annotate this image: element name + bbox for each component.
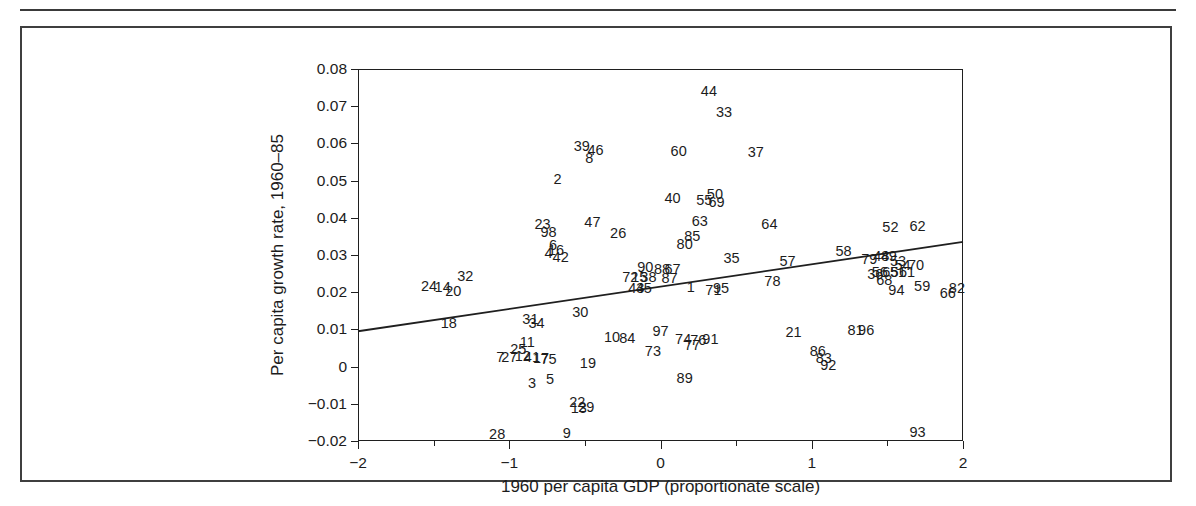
data-point-label: 24: [421, 278, 437, 293]
y-tick-mark: [351, 441, 358, 442]
data-point-label: 97: [652, 324, 668, 339]
data-point-label: 33: [716, 105, 732, 120]
data-point-label: 35: [724, 251, 740, 266]
y-tick-label: 0.06: [317, 134, 347, 152]
x-minor-tick-mark: [585, 441, 586, 446]
data-point-label: 30: [572, 305, 588, 320]
data-point-label: 79: [861, 252, 877, 267]
data-point-label: 95: [713, 281, 729, 296]
data-point-label: 46: [587, 142, 603, 157]
y-tick-label: 0.08: [317, 60, 347, 78]
x-minor-tick-mark: [887, 441, 888, 446]
data-point-label: 19: [580, 356, 596, 371]
y-tick-label: −0.02: [308, 432, 347, 450]
data-point-label: 32: [457, 269, 473, 284]
data-point-label: 84: [619, 330, 635, 345]
data-point-label: 57: [779, 254, 795, 269]
data-point-label: 34: [528, 316, 544, 331]
y-tick-mark: [351, 367, 358, 368]
data-point-label: 70: [908, 257, 924, 272]
data-point-label: 92: [820, 357, 836, 372]
x-tick-label: 2: [959, 454, 968, 472]
data-point-label: 90: [637, 260, 653, 275]
data-point-label: 75: [540, 352, 556, 367]
data-point-label: 78: [764, 274, 780, 289]
data-point-label: 40: [665, 191, 681, 206]
data-point-label: 52: [882, 220, 898, 235]
y-tick-mark: [351, 181, 358, 182]
data-point-label: 18: [441, 315, 457, 330]
data-point-label: 94: [888, 282, 904, 297]
x-minor-tick-mark: [736, 441, 737, 446]
x-tick-label: −1: [500, 454, 518, 472]
x-tick-label: 0: [656, 454, 665, 472]
data-point-label: 64: [761, 217, 777, 232]
x-tick-mark: [812, 441, 813, 449]
data-point-label: 91: [702, 332, 718, 347]
data-point-label: 58: [835, 244, 851, 259]
data-point-label: 88: [654, 262, 670, 277]
data-point-label: 1: [687, 280, 695, 295]
data-point-label: 44: [701, 84, 717, 99]
x-tick-mark: [509, 441, 510, 449]
y-axis-title-container: Per capita growth rate, 1960–85: [268, 69, 292, 441]
data-point-label: 5: [546, 371, 554, 386]
data-point-label: 59: [914, 279, 930, 294]
y-tick-label: 0.05: [317, 172, 347, 190]
y-tick-mark: [351, 143, 358, 144]
data-point-label: 37: [748, 144, 764, 159]
data-point-label: 82: [949, 281, 965, 296]
data-point-label: 42: [553, 250, 569, 265]
data-point-label: 41: [524, 350, 540, 365]
y-tick-mark: [351, 218, 358, 219]
data-point-label: 73: [645, 344, 661, 359]
data-point-label: 96: [858, 323, 874, 338]
figure-page: Per capita growth rate, 1960–85 −0.02−0.…: [0, 0, 1196, 506]
data-point-label: 10: [604, 330, 620, 345]
data-point-label: 2: [554, 172, 562, 187]
data-point-label: 98: [540, 225, 556, 240]
x-tick-mark: [358, 441, 359, 449]
y-tick-label: 0.03: [317, 246, 347, 264]
x-tick-label: −2: [349, 454, 367, 472]
data-point-label: 72: [622, 270, 638, 285]
top-horizontal-rule: [20, 9, 1176, 11]
x-tick-mark: [963, 441, 964, 449]
data-point-label: 47: [584, 215, 600, 230]
data-point-label: 77: [684, 338, 700, 353]
y-tick-mark: [351, 69, 358, 70]
data-point-label: 3: [528, 375, 536, 390]
y-tick-label: 0.02: [317, 283, 347, 301]
y-tick-label: 0: [338, 358, 347, 376]
y-axis-title: Per capita growth rate, 1960–85: [268, 69, 288, 441]
figure-frame: Per capita growth rate, 1960–85 −0.02−0.…: [20, 26, 1172, 482]
data-point-label: 9: [563, 426, 571, 441]
x-minor-tick-mark: [434, 441, 435, 446]
y-tick-label: 0.04: [317, 209, 347, 227]
x-axis-title: 1960 per capita GDP (proportionate scale…: [358, 477, 963, 497]
data-point-label: 89: [677, 371, 693, 386]
data-point-label: 28: [489, 427, 505, 442]
data-point-label: 63: [692, 214, 708, 229]
x-tick-mark: [661, 441, 662, 449]
y-tick-label: −0.01: [308, 395, 347, 413]
data-point-label: 85: [684, 228, 700, 243]
plot-area: −0.02−0.0100.010.020.030.040.050.060.070…: [358, 69, 963, 441]
y-tick-mark: [351, 292, 358, 293]
y-tick-mark: [351, 255, 358, 256]
y-tick-label: 0.07: [317, 97, 347, 115]
data-point-label: 20: [445, 284, 461, 299]
y-tick-mark: [351, 106, 358, 107]
data-point-label: 29: [578, 400, 594, 415]
data-point-label: 26: [610, 226, 626, 241]
data-point-label: 27: [501, 350, 517, 365]
data-point-label: 62: [910, 218, 926, 233]
y-tick-mark: [351, 329, 358, 330]
y-tick-label: 0.01: [317, 320, 347, 338]
data-point-label: 93: [910, 424, 926, 439]
x-tick-label: 1: [807, 454, 816, 472]
y-tick-mark: [351, 404, 358, 405]
data-point-label: 21: [786, 325, 802, 340]
data-point-label: 69: [708, 195, 724, 210]
data-point-label: 60: [671, 144, 687, 159]
